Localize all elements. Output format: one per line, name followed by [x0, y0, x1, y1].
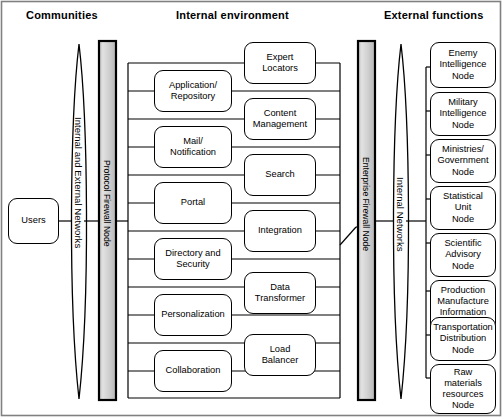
node-directory-and-security[interactable]: Directory andSecurity: [154, 238, 232, 280]
node-scientific-advisory[interactable]: ScientificAdvisoryNode: [430, 233, 496, 277]
node-data-transformer[interactable]: DataTransformer: [244, 272, 316, 314]
diagram-canvas: Communities Internal environment Externa…: [0, 0, 502, 417]
node-raw-materials-resources[interactable]: RawmaterialsresourcesNode: [430, 364, 496, 414]
node-search[interactable]: Search: [244, 154, 316, 196]
node-application-repository[interactable]: Application/Repository: [154, 70, 232, 112]
node-transportation-distribution[interactable]: TransportationDistributionNode: [430, 317, 496, 361]
node-statistical-unit[interactable]: StatisticalUnitNode: [430, 186, 496, 230]
label-internal-networks: Internal Networks: [395, 177, 406, 252]
node-personalization[interactable]: Personalization: [154, 294, 232, 336]
node-load-balancer[interactable]: LoadBalancer: [244, 334, 316, 376]
node-military-intelligence[interactable]: MilitaryIntelligenceNode: [430, 92, 496, 136]
node-content-management[interactable]: ContentManagement: [244, 98, 316, 140]
node-enemy-intelligence[interactable]: EnemyIntelligenceNode: [430, 42, 496, 88]
node-portal[interactable]: Portal: [154, 182, 232, 224]
column-header-internal-environment: Internal environment: [176, 9, 289, 21]
label-enterprise-firewall-node: Enterprise Firewall Node: [361, 157, 371, 251]
node-users[interactable]: Users: [8, 198, 59, 244]
column-header-communities: Communities: [26, 9, 98, 21]
node-expert-locators[interactable]: ExpertLocators: [244, 42, 316, 84]
node-mail-notification[interactable]: Mail/Notification: [154, 126, 232, 168]
column-header-external-functions: External functions: [384, 9, 484, 21]
label-internal-and-external-networks: Internal and External Networks: [73, 117, 84, 248]
node-integration[interactable]: Integration: [244, 210, 316, 252]
node-collaboration[interactable]: Collaboration: [154, 350, 232, 392]
label-protocol-firewall-node: Protocol Firewall Node: [102, 160, 112, 246]
node-ministries-government[interactable]: Ministries/GovernmentNode: [430, 139, 496, 183]
